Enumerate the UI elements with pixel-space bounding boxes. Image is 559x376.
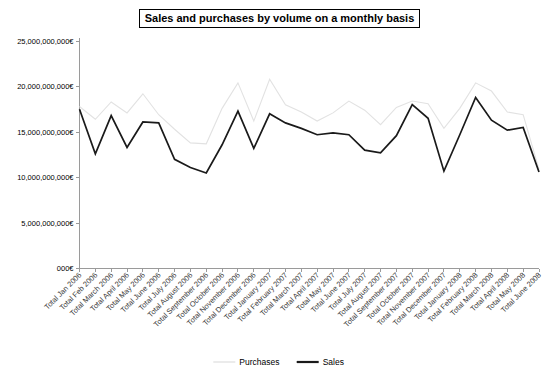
series-line-purchases — [80, 79, 540, 169]
chart-figure: Sales and purchases by volume on a month… — [0, 0, 559, 376]
legend-item-purchases: Purchases — [213, 357, 279, 367]
y-axis-tick-label: 000€ — [57, 264, 75, 273]
y-axis-tick-label: 10,000,000,000€ — [17, 173, 74, 182]
series-line-sales — [80, 97, 540, 173]
legend-item-sales: Sales — [297, 357, 344, 367]
y-axis-tick-label: 20,000,000,000€ — [17, 82, 74, 91]
y-axis-tick-label: 5,000,000,000€ — [21, 219, 74, 228]
legend-label-purchases: Purchases — [239, 357, 279, 367]
y-axis-tick-label: 25,000,000,000€ — [17, 37, 74, 46]
y-axis-tick-label: 15,000,000,000€ — [17, 128, 74, 137]
legend-label-sales: Sales — [323, 357, 344, 367]
line-chart-plot: 25,000,000,000€20,000,000,000€15,000,000… — [0, 0, 559, 376]
